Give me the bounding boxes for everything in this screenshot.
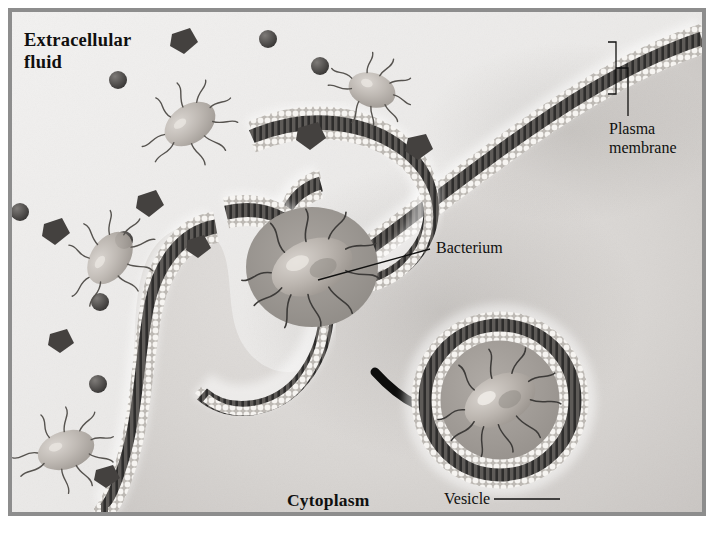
label-cytoplasm: Cytoplasm (287, 490, 370, 511)
phagocytosis-illustration (12, 12, 702, 512)
label-bacterium: Bacterium (436, 239, 503, 258)
label-plasma-membrane: Plasma membrane (609, 120, 677, 158)
figure-root: Extracellular fluid Plasma membrane Bact… (0, 0, 718, 537)
vesicle-group (404, 304, 596, 496)
figure-frame: Extracellular fluid Plasma membrane Bact… (8, 8, 706, 516)
label-vesicle: Vesicle (444, 490, 490, 509)
label-extracellular-fluid: Extracellular fluid (24, 30, 131, 74)
